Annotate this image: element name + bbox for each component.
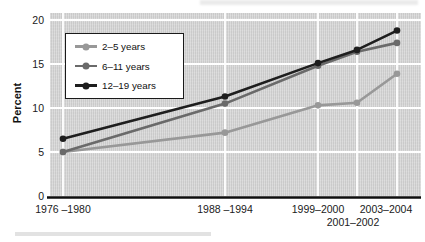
data-point xyxy=(315,60,322,67)
legend-line-dot-marker xyxy=(75,65,97,68)
data-point xyxy=(222,129,229,136)
obesity-trend-chart-figure: Percent 05101520 1976 –19801988 –1994199… xyxy=(0,0,425,242)
data-point xyxy=(394,40,401,47)
x-tick-label: 1976 –1980 xyxy=(28,203,98,215)
x-tick-label: 2001–2002 xyxy=(318,216,388,228)
data-point xyxy=(394,27,401,34)
x-tick-label: 1999–2000 xyxy=(283,203,353,215)
x-tick-label: 1988 –1994 xyxy=(190,203,260,215)
data-point xyxy=(222,93,229,100)
legend-line-dot-marker xyxy=(75,84,97,87)
legend-label: 2–5 years xyxy=(102,41,145,52)
data-point xyxy=(315,102,322,109)
legend-dot-icon xyxy=(83,43,90,50)
y-tick-label: 5 xyxy=(18,146,44,159)
legend-label: 6–11 years xyxy=(102,61,150,72)
data-point xyxy=(394,70,401,77)
legend-label: 12–19 years xyxy=(102,80,156,91)
y-tick-label: 20 xyxy=(18,14,44,27)
data-point xyxy=(60,149,67,156)
data-point xyxy=(354,99,361,106)
legend-item: 6–11 years xyxy=(75,59,183,73)
legend-item: 2–5 years xyxy=(75,40,183,54)
legend-line-dot-marker xyxy=(75,45,97,48)
legend-dot-icon xyxy=(83,63,90,70)
y-tick-label: 10 xyxy=(18,102,44,115)
data-point xyxy=(354,47,361,54)
chart-legend: 2–5 years6–11 years12–19 years xyxy=(65,33,184,99)
y-tick-label: 0 xyxy=(18,190,44,203)
data-point xyxy=(60,136,67,143)
legend-item: 12–19 years xyxy=(75,79,183,93)
legend-dot-icon xyxy=(83,82,90,89)
data-point xyxy=(222,100,229,107)
x-tick-label: 2003–2004 xyxy=(351,203,421,215)
y-tick-label: 15 xyxy=(18,58,44,71)
